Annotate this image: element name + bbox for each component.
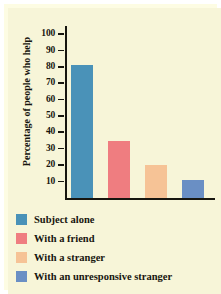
y-tick-label: 100: [41, 27, 55, 40]
y-tick-mark: [58, 164, 64, 166]
legend-label: Subject alone: [34, 214, 94, 226]
bar: [71, 65, 93, 198]
bar: [145, 165, 167, 198]
bar: [182, 180, 204, 198]
y-tick-label: 30: [46, 142, 55, 155]
y-tick-label: 80: [46, 60, 55, 73]
legend-item: With a stranger: [16, 248, 221, 267]
y-tick-mark: [58, 148, 64, 150]
y-axis-ticks: 100908070605040302010: [8, 8, 65, 208]
chart-panel: Percentage of people who help 1009080706…: [8, 8, 221, 294]
legend-label: With a friend: [34, 233, 94, 245]
y-tick-mark: [58, 82, 64, 84]
legend-label: With an unresponsive stranger: [34, 271, 172, 283]
y-tick-label: 50: [46, 109, 55, 122]
bar-group: [67, 26, 215, 198]
figure-frame: Percentage of people who help 1009080706…: [0, 0, 221, 294]
y-tick-label: 10: [46, 175, 55, 188]
y-tick-label: 40: [46, 125, 55, 138]
legend-swatch: [16, 233, 27, 244]
y-tick-label: 20: [46, 158, 55, 171]
legend-item: With a friend: [16, 229, 221, 248]
bar: [108, 141, 130, 198]
y-tick-mark: [58, 181, 64, 183]
y-tick-label: 70: [46, 76, 55, 89]
legend-item: Subject alone: [16, 210, 221, 229]
y-tick-label: 60: [46, 93, 55, 106]
y-tick-mark: [58, 115, 64, 117]
legend-label: With a stranger: [34, 252, 105, 264]
legend: Subject aloneWith a friendWith a strange…: [16, 210, 221, 286]
y-tick-mark: [58, 33, 64, 35]
y-tick-mark: [58, 131, 64, 133]
legend-swatch: [16, 271, 27, 282]
x-axis-line: [65, 198, 215, 200]
legend-swatch: [16, 214, 27, 225]
y-tick-label: 90: [46, 44, 55, 57]
plot-area: Percentage of people who help 1009080706…: [8, 8, 221, 208]
legend-item: With an unresponsive stranger: [16, 267, 221, 286]
y-tick-mark: [58, 99, 64, 101]
y-tick-mark: [58, 66, 64, 68]
legend-swatch: [16, 252, 27, 263]
y-tick-mark: [58, 50, 64, 52]
